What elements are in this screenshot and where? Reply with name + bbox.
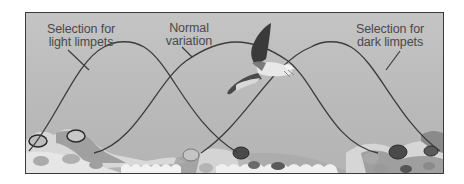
label-normal-variation: Normal variation xyxy=(149,22,229,48)
normal-variation-curve xyxy=(94,42,378,153)
normal-label-pointer xyxy=(182,47,192,57)
label-selection-dark-limpets: Selection for dark limpets xyxy=(344,23,436,49)
dark-label-pointer xyxy=(386,51,400,70)
label-line: light limpets xyxy=(33,36,129,49)
diagram-frame: Selection for light limpets Normal varia… xyxy=(25,12,444,174)
label-line: dark limpets xyxy=(344,36,436,49)
light-label-pointer xyxy=(68,50,89,70)
label-selection-light-limpets: Selection for light limpets xyxy=(33,23,129,49)
dark-limpets-curve xyxy=(201,42,440,153)
label-line: variation xyxy=(149,35,229,48)
